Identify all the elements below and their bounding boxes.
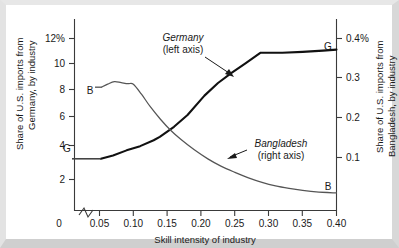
x-tick-label-030: 0.30: [259, 218, 279, 229]
series-start-tag-germany: G: [63, 143, 71, 154]
right-tick-label-04: 0.4%: [346, 33, 369, 44]
right-tick-label-03: 0.3: [346, 72, 360, 83]
annotation-bangladesh-label: Bangladesh: [255, 138, 308, 149]
right-tick-label-01: 0.1: [346, 152, 360, 163]
right-axis: 0.4% 0.3 0.2 0.1 Share of U.S. imports f…: [337, 19, 398, 211]
left-tick-label-6: 6: [59, 111, 65, 122]
chart-canvas: 12% 10 8 6 4 2 Share of U.S. imports fro…: [6, 5, 399, 248]
series-end-tag-germany: G: [324, 41, 332, 52]
x-tick-label-025: 0.25: [225, 218, 245, 229]
left-tick-label-12: 12%: [45, 33, 65, 44]
annotation-germany-sublabel: (left axis): [163, 44, 204, 55]
x-tick-label-005: 0.05: [90, 218, 110, 229]
annotation-germany: Germany (left axis): [162, 32, 234, 77]
x-axis: 0 0.05 0.10 0.15 0.20 0.25 0.30 0.35 0.4…: [56, 208, 346, 245]
x-tick-label-0: 0: [56, 218, 62, 229]
annotation-germany-label: Germany: [162, 32, 204, 43]
x-tick-label-040: 0.40: [327, 218, 347, 229]
left-axis: 12% 10 8 6 4 2 Share of U.S. imports fro…: [14, 19, 75, 211]
left-tick-label-8: 8: [59, 84, 65, 95]
x-tick-label-015: 0.15: [157, 218, 177, 229]
annotation-bangladesh-arrowhead: [227, 153, 237, 159]
left-tick-label-10: 10: [54, 58, 66, 69]
x-axis-title: Skill intensity of industry: [154, 234, 256, 245]
x-tick-label-020: 0.20: [191, 218, 211, 229]
left-tick-label-2: 2: [59, 174, 65, 185]
axis-break-icon: [79, 208, 93, 217]
figure-frame: 12% 10 8 6 4 2 Share of U.S. imports fro…: [0, 0, 399, 248]
x-axis-ticks: [100, 211, 337, 217]
right-axis-title-line1: Share of U.S. imports from: [374, 40, 385, 153]
series-end-tag-bangladesh: B: [325, 181, 332, 192]
x-tick-label-010: 0.10: [124, 218, 144, 229]
x-tick-label-035: 0.35: [293, 218, 313, 229]
right-tick-label-02: 0.2: [346, 112, 360, 123]
left-axis-title-line2: Germany, by industry: [26, 40, 37, 130]
right-axis-title-line2: Bangladesh, by industry: [386, 55, 397, 157]
annotation-bangladesh: Bangladesh (right axis): [227, 138, 308, 161]
left-axis-title-line1: Share of U.S. imports from: [14, 37, 25, 150]
annotation-bangladesh-sublabel: (right axis): [258, 150, 305, 161]
series-start-tag-bangladesh: B: [87, 85, 94, 96]
right-axis-ticks: [337, 39, 343, 158]
